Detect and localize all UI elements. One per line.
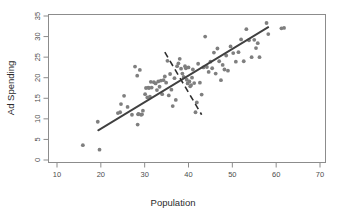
data-point [223, 68, 227, 72]
data-point [195, 101, 199, 105]
data-point [250, 55, 254, 59]
scatter-plot-figure: 10203040506070 05101520253035 Population… [0, 0, 346, 214]
data-point [191, 68, 195, 72]
data-point [164, 81, 168, 85]
data-point [190, 76, 194, 80]
data-point [171, 104, 175, 108]
plot-canvas: 10203040506070 05101520253035 Population… [0, 0, 346, 214]
data-point [244, 27, 248, 31]
x-tick-label-40: 40 [184, 170, 192, 179]
y-tick-label-15: 15 [33, 94, 42, 102]
data-point [239, 38, 243, 42]
data-point [237, 50, 241, 54]
data-point [242, 59, 246, 63]
data-point [231, 51, 235, 55]
data-point [216, 47, 220, 51]
data-point [168, 72, 172, 76]
data-point [258, 55, 262, 59]
data-point [221, 63, 225, 67]
x-tick-label-30: 30 [140, 170, 148, 179]
y-tick-label-5: 5 [33, 137, 42, 141]
y-tick-label-20: 20 [33, 74, 42, 82]
x-axis-title: Population [151, 197, 196, 208]
data-point [217, 59, 221, 63]
x-tick-label-60: 60 [272, 170, 280, 179]
data-point [118, 110, 122, 114]
data-point [266, 32, 270, 36]
data-point [207, 70, 211, 74]
data-point [219, 78, 223, 82]
y-tick-label-30: 30 [33, 32, 42, 40]
x-tick-label-10: 10 [53, 170, 61, 179]
data-point [203, 35, 207, 39]
data-point [192, 81, 196, 85]
data-point [229, 45, 233, 49]
data-point [141, 109, 145, 113]
data-point [150, 86, 154, 90]
data-point [282, 26, 286, 30]
data-point [196, 62, 200, 66]
data-point [140, 112, 144, 116]
data-point [96, 120, 100, 124]
data-point [234, 60, 238, 64]
y-tick-label-25: 25 [33, 53, 42, 61]
x-tick-label-70: 70 [316, 170, 324, 179]
data-point [98, 148, 102, 152]
data-point [187, 80, 191, 84]
y-axis-title: Ad Spending [5, 61, 16, 115]
data-point [133, 65, 137, 69]
data-point [252, 38, 256, 42]
data-point [180, 72, 184, 76]
data-point [130, 113, 134, 117]
data-point [254, 46, 258, 50]
x-tick-label-20: 20 [97, 170, 105, 179]
data-point [210, 66, 214, 70]
data-point [167, 94, 171, 98]
data-point [163, 75, 167, 79]
data-point [158, 85, 162, 89]
data-point [226, 69, 230, 73]
data-point [214, 72, 218, 76]
data-point [170, 88, 174, 92]
data-point [135, 74, 139, 78]
data-point [265, 21, 269, 25]
data-point [212, 51, 216, 55]
data-point [126, 105, 130, 109]
data-point [187, 66, 191, 70]
data-point [194, 110, 198, 114]
data-point [256, 41, 260, 45]
data-point [119, 102, 123, 106]
data-point [136, 123, 140, 127]
data-point [122, 94, 126, 98]
y-tick-label-10: 10 [33, 115, 42, 123]
data-point [177, 61, 181, 65]
data-point [155, 88, 159, 92]
data-point [166, 59, 170, 63]
data-point [200, 93, 204, 97]
data-point [198, 81, 202, 85]
data-point [138, 68, 142, 72]
data-point [143, 92, 147, 96]
data-point [173, 76, 177, 80]
y-tick-label-0: 0 [33, 158, 42, 162]
y-tick-label-35: 35 [33, 12, 42, 20]
x-tick-label-50: 50 [228, 170, 236, 179]
data-point [174, 98, 178, 102]
data-point [179, 67, 183, 71]
data-point [178, 57, 182, 61]
data-point [81, 143, 85, 147]
